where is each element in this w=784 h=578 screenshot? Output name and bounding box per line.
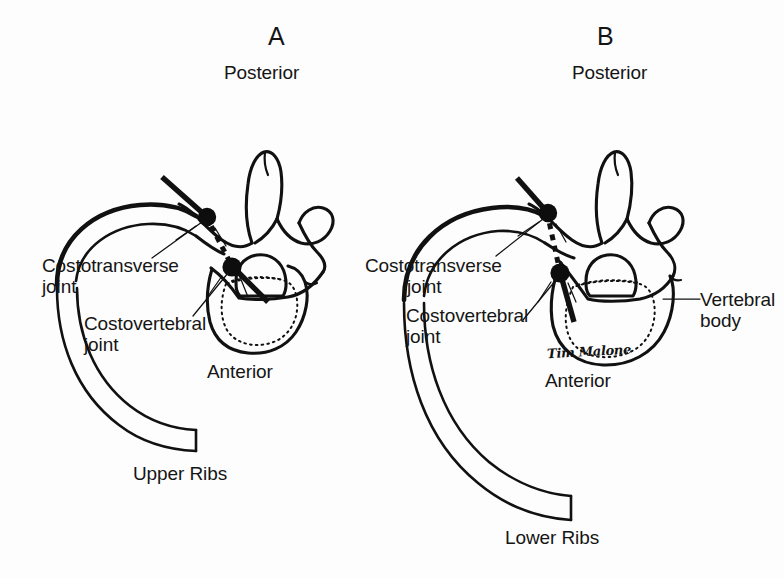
panel-b-vertebral-body-label-line2: body <box>700 310 741 332</box>
panel-b-costovertebral-joint-marker <box>550 263 569 282</box>
panel-a-needle <box>162 177 268 302</box>
panel-a-letter: A <box>268 22 285 51</box>
panel-a-caption: Upper Ribs <box>133 463 227 485</box>
panel-b-anterior-label: Anterior <box>545 370 611 392</box>
panel-a-posterior-label: Posterior <box>224 62 299 84</box>
panel-a-costotransverse-label-line2: joint <box>42 276 76 298</box>
panel-b-art <box>404 152 700 520</box>
panel-b-vertebra <box>529 152 683 365</box>
panel-b-costovertebral-label-line1: Costovertebral <box>406 305 528 327</box>
panel-b-rib <box>404 207 571 520</box>
panel-b-costovertebral-label-line2: joint <box>406 326 440 348</box>
panel-a-costovertebral-label-line2: joint <box>84 334 118 356</box>
panel-a-anterior-label: Anterior <box>207 361 273 383</box>
figure-canvas: A Posterior Costotransverse joint Costov… <box>0 0 784 578</box>
panel-a-costovertebral-label-line1: Costovertebral <box>84 313 206 335</box>
panel-a-costovertebral-joint-marker <box>222 257 241 276</box>
panel-b-costotransverse-joint-marker <box>539 204 557 222</box>
panel-a-art <box>57 152 333 451</box>
panel-b-caption: Lower Ribs <box>505 527 599 549</box>
panel-b-costotransverse-leader <box>496 219 543 256</box>
panel-a-costotransverse-leader <box>152 222 202 258</box>
panel-a-costovertebral-leader <box>193 273 228 316</box>
diagram-artwork <box>0 0 784 578</box>
panel-b-needle <box>517 178 574 322</box>
panel-b-costotransverse-label-line1: Costotransverse <box>365 255 502 277</box>
panel-b-costotransverse-label-line2: joint <box>407 276 441 298</box>
panel-b-posterior-label: Posterior <box>572 62 647 84</box>
panel-a-costotransverse-label-line1: Costotransverse <box>42 255 179 277</box>
panel-b-letter: B <box>597 22 614 51</box>
panel-b-vertebral-body-label-line1: Vertebral <box>700 289 775 311</box>
artist-signature: Tim Malone <box>547 342 632 361</box>
panel-a-costotransverse-joint-marker <box>198 208 216 226</box>
